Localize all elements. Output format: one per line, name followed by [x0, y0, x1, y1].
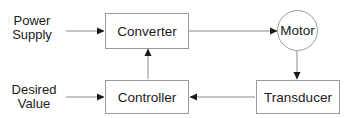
transducer-label: Transducer — [264, 90, 332, 105]
controller-block: Controller — [105, 80, 189, 114]
transducer-block: Transducer — [256, 80, 340, 114]
converter-block: Converter — [105, 13, 189, 49]
converter-label: Converter — [117, 24, 176, 39]
desired-value-line1: Desired — [6, 83, 62, 97]
desired-value-line2: Value — [6, 97, 62, 111]
power-supply-label: Power Supply — [2, 14, 62, 42]
power-supply-line1: Power — [2, 14, 62, 28]
controller-label: Controller — [118, 90, 177, 105]
desired-value-label: Desired Value — [6, 83, 62, 111]
power-supply-line2: Supply — [2, 28, 62, 42]
motor-label: Motor — [280, 23, 315, 38]
motor-block: Motor — [277, 10, 318, 51]
